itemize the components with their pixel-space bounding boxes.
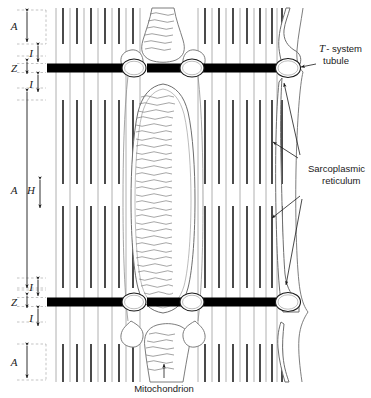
svg-text:T- system: T- system (319, 42, 362, 54)
band-label-h-middle: H (26, 184, 36, 196)
annotation-t-system-tubule: T- system tubule (319, 42, 362, 66)
t-system-leader (301, 64, 316, 67)
annotation-sarcoplasmic-reticulum: Sarcoplasmic reticulum (308, 163, 365, 186)
mitochondrion-central (131, 84, 195, 313)
band-label-i-top-upper: I (28, 47, 34, 59)
t-system-italic-t: T (319, 42, 326, 54)
sarcoplasmic-line2: reticulum (322, 175, 361, 186)
band-label-a-top: A (10, 20, 18, 32)
t-system-rest: - system (326, 43, 362, 54)
band-label-z-bottom: Z (11, 296, 18, 308)
band-label-z-top: Z (11, 62, 18, 74)
z-line-top (47, 59, 301, 78)
band-label-i-bottom-upper: I (28, 281, 34, 293)
mitochondrion-label: Mitochondrion (134, 383, 194, 394)
sarcoplasmic-line1: Sarcoplasmic (308, 163, 365, 174)
diagram-canvas: A I Z I A H I Z I A T- system (0, 0, 371, 398)
muscle-ultrastructure-figure: A I Z I A H I Z I A T- system (0, 0, 371, 398)
band-label-a-middle: A (10, 184, 18, 196)
t-system-line2: tubule (323, 55, 349, 66)
band-label-a-bottom: A (10, 356, 18, 368)
annotation-mitochondrion: Mitochondrion (134, 383, 194, 394)
mitochondrion-top (142, 8, 185, 62)
